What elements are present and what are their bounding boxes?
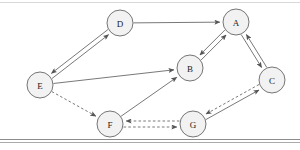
graph-node-a[interactable]: A [223,9,249,35]
edge-b-to-a [201,35,226,60]
node-circle-c [259,67,285,93]
edge-a-to-c [241,35,261,68]
edge-d-to-e [51,30,108,74]
node-circle-e [27,72,53,98]
diagram-page: ABCDEFG [0,0,300,150]
edge-f-to-b [121,77,177,116]
node-circle-f [97,111,123,137]
node-layer: ABCDEFG [27,9,285,137]
graph-node-e[interactable]: E [27,72,53,98]
node-circle-d [107,10,133,36]
node-circle-g [180,111,206,137]
edge-layer [51,22,266,127]
edge-e-to-d [52,35,109,79]
graph-node-f[interactable]: F [97,111,123,137]
edge-e-to-b [53,70,173,84]
graph-node-b[interactable]: B [177,55,203,81]
edge-c-to-g [206,84,259,114]
bottom-rule-lower [0,142,300,143]
edge-a-to-b [200,30,225,55]
graph-node-g[interactable]: G [180,111,206,137]
edge-d-to-a [134,22,220,23]
edge-e-to-f [52,92,96,117]
node-circle-b [177,55,203,81]
bottom-rule-upper [0,139,300,140]
edge-g-to-c [206,90,259,120]
graph-node-c[interactable]: C [259,67,285,93]
edge-c-to-a [246,35,266,68]
node-circle-a [223,9,249,35]
graph-canvas: ABCDEFG [0,0,300,150]
graph-node-d[interactable]: D [107,10,133,36]
